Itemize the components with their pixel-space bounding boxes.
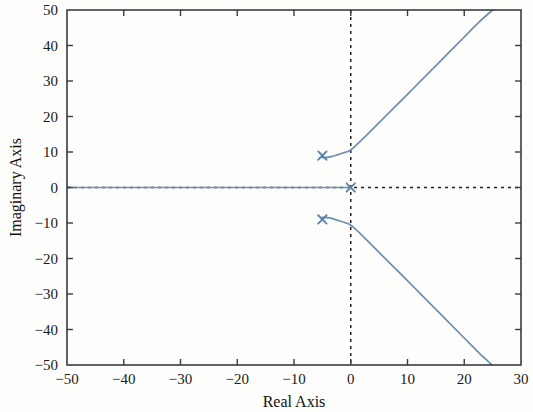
y-tick-label: −50 (35, 357, 58, 373)
y-tick-label: 20 (43, 109, 58, 125)
y-tick-label: −40 (35, 322, 58, 338)
y-tick-label: −10 (35, 215, 58, 231)
x-tick-label: 20 (457, 371, 472, 387)
x-tick-label: 10 (400, 371, 415, 387)
plot-canvas: −50−40−30−20−100102030−50−40−30−20−10010… (0, 0, 533, 412)
x-axis-title: Real Axis (263, 393, 326, 410)
y-tick-label: 30 (43, 73, 58, 89)
root-locus-figure: −50−40−30−20−100102030−50−40−30−20−10010… (0, 0, 533, 412)
x-tick-label: −40 (112, 371, 135, 387)
x-tick-label: −30 (169, 371, 192, 387)
y-tick-label: −30 (35, 286, 58, 302)
y-tick-label: 40 (43, 38, 58, 54)
y-tick-label: 0 (51, 180, 59, 196)
x-tick-label: −20 (226, 371, 249, 387)
x-tick-label: −50 (55, 371, 78, 387)
x-tick-label: 0 (347, 371, 355, 387)
x-tick-label: −10 (282, 371, 305, 387)
x-tick-label: 30 (514, 371, 529, 387)
y-tick-label: 10 (43, 144, 58, 160)
y-tick-label: 50 (43, 2, 58, 18)
y-axis-title: Imaginary Axis (7, 138, 25, 237)
y-tick-label: −20 (35, 251, 58, 267)
plot-background (0, 0, 533, 412)
